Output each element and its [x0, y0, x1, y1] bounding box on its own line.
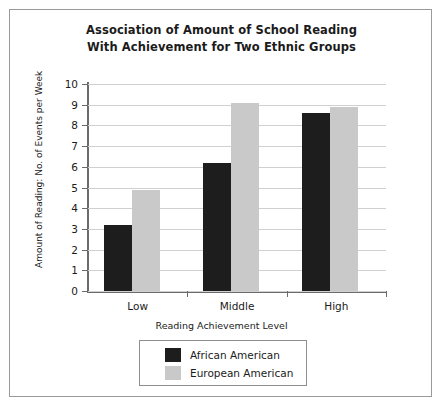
x-axis-label-high: High	[291, 300, 381, 312]
chart-figure: Association of Amount of School Reading …	[9, 9, 432, 397]
bar-low-african-american	[104, 225, 132, 291]
y-tick-label-8: 8	[60, 120, 78, 130]
chart-title-line-2: With Achievement for Two Ethnic Groups	[10, 39, 433, 56]
y-tick-label-9: 9	[60, 100, 78, 110]
chart-title: Association of Amount of School Reading …	[10, 22, 433, 56]
x-axis-label-middle: Middle	[192, 300, 282, 312]
legend-label-african-american: African American	[190, 348, 280, 362]
y-tick-6	[82, 167, 87, 168]
x-axis-title: Reading Achievement Level	[10, 320, 433, 331]
gridline-10	[88, 84, 386, 85]
legend-swatch-european-american	[165, 366, 181, 380]
y-tick-label-1: 1	[60, 265, 78, 275]
x-axis-tick-1	[287, 291, 288, 297]
y-tick-9	[82, 105, 87, 106]
legend-swatch-african-american	[165, 348, 181, 362]
y-tick-label-5: 5	[60, 183, 78, 193]
y-tick-3	[82, 229, 87, 230]
y-tick-7	[82, 146, 87, 147]
bar-low-european-american	[132, 190, 160, 291]
chart-title-line-1: Association of Amount of School Reading	[10, 22, 433, 39]
y-tick-5	[82, 188, 87, 189]
bar-high-african-american	[302, 113, 330, 291]
y-tick-label-10: 10	[60, 79, 78, 89]
chart-legend: African American European American	[139, 340, 307, 386]
y-tick-label-0: 0	[60, 286, 78, 296]
legend-label-european-american: European American	[190, 366, 293, 380]
y-tick-label-4: 4	[60, 203, 78, 213]
x-axis-tick-0	[187, 291, 188, 297]
y-tick-label-7: 7	[60, 141, 78, 151]
y-tick-label-6: 6	[60, 162, 78, 172]
plot-area	[88, 84, 386, 291]
x-axis-tick-2	[386, 291, 387, 297]
gridline-0	[88, 291, 386, 292]
x-axis-label-low: Low	[93, 300, 183, 312]
y-tick-label-3: 3	[60, 224, 78, 234]
y-axis-title: Amount of Reading: No. of Events per Wee…	[34, 98, 44, 268]
bar-middle-european-american	[231, 103, 259, 291]
y-tick-label-2: 2	[60, 245, 78, 255]
bar-middle-african-american	[203, 163, 231, 291]
y-tick-10	[82, 84, 87, 85]
bar-high-european-american	[330, 107, 358, 291]
y-tick-0	[82, 291, 87, 292]
y-tick-4	[82, 208, 87, 209]
y-tick-2	[82, 250, 87, 251]
y-tick-1	[82, 270, 87, 271]
y-tick-8	[82, 125, 87, 126]
